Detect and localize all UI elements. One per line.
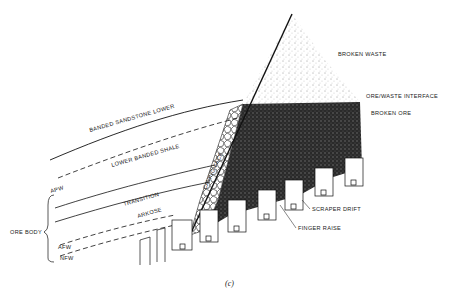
block-caving-diagram: BROKEN WASTE ORE/WASTE INTERFACE BROKEN … (0, 0, 453, 297)
label-lower-banded-shale: LOWER BANDED SHALE (111, 143, 181, 168)
broken-waste-area (243, 14, 360, 104)
label-ore-waste-interface: ORE/WASTE INTERFACE (366, 93, 438, 99)
label-afw: AFW (58, 244, 72, 250)
label-ore-body: ORE BODY (10, 229, 42, 235)
label-arkose: ARKOSE (137, 206, 163, 219)
label-scraper-drift: SCRAPER DRIFT (312, 206, 361, 212)
label-broken-ore: BROKEN ORE (371, 110, 411, 116)
label-finger-raise: FINGER RAISE (298, 225, 341, 231)
figure-caption: (c) (225, 279, 234, 288)
ore-body-brace (44, 195, 54, 262)
label-nfw: NFW (60, 255, 74, 261)
label-broken-waste: BROKEN WASTE (338, 51, 386, 57)
label-transition: TRANSITION (123, 191, 160, 207)
label-apw: APW (50, 184, 65, 194)
